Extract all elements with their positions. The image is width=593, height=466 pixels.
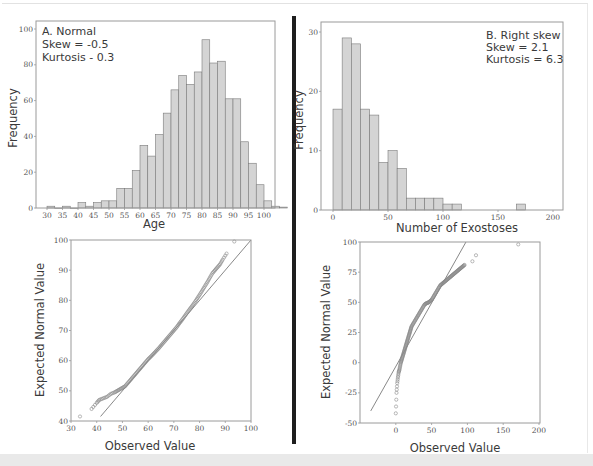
histogram-bar (233, 99, 241, 208)
data-point (471, 260, 474, 263)
y-tick-label: 90 (58, 266, 68, 275)
qq-plot-age-points (78, 240, 251, 418)
histogram-bar (434, 198, 443, 210)
x-tick-label: 200 (532, 426, 547, 435)
x-tick-label: 90 (228, 211, 238, 220)
data-point (474, 254, 477, 257)
histogram-bar (333, 109, 342, 210)
y-tick-label: 80 (58, 296, 68, 305)
histogram-bar (406, 198, 415, 210)
data-point (93, 403, 96, 406)
qq-plot-age-axes: 30405060708090100405060708090100 (54, 236, 259, 434)
qq-plot-exostoses-points (371, 242, 520, 415)
y-axis-title: Expected Normal Value (33, 263, 47, 397)
x-tick-label: 100 (244, 424, 259, 433)
y-tick-label: 40 (58, 417, 68, 426)
x-tick-label: 40 (73, 211, 83, 220)
x-tick-label: 35 (58, 211, 68, 220)
y-tick-label: 100 (343, 238, 358, 247)
histogram-bar (156, 135, 164, 208)
x-tick-label: 50 (118, 424, 128, 433)
histogram-bar (94, 203, 102, 208)
histogram-bar (194, 72, 202, 208)
histogram-bar (187, 84, 195, 208)
data-point (90, 407, 93, 410)
figure-canvas: 3035404550556065707580859095100020406080… (0, 0, 593, 466)
histogram-age-bars (47, 40, 287, 209)
x-tick-label: 90 (221, 424, 231, 433)
histogram-bar (397, 168, 406, 210)
histogram-bar (256, 185, 264, 208)
x-tick-label: 200 (546, 213, 561, 222)
histogram-exostoses: 0501001502000102030 B. Right skew Skew =… (292, 22, 563, 235)
histogram-bar (280, 207, 288, 208)
y-axis-title: Frequency (6, 88, 20, 148)
x-tick-label: 75 (182, 211, 192, 220)
y-tick-label: 70 (58, 326, 68, 335)
histogram-bar (361, 109, 370, 210)
data-point (517, 243, 520, 246)
histogram-bar (351, 44, 360, 210)
x-tick-label: 80 (197, 211, 207, 220)
histogram-bar (425, 198, 434, 210)
y-tick-label: 20 (23, 168, 33, 177)
histogram-bar (249, 163, 257, 208)
y-tick-label: 0 (313, 206, 318, 215)
data-point (395, 385, 398, 388)
histogram-bar (210, 63, 218, 208)
y-tick-label: 25 (347, 328, 357, 337)
histogram-bar (443, 204, 452, 210)
y-tick-label: 30 (308, 28, 318, 37)
y-tick-label: 50 (58, 386, 68, 395)
annotation-kurtosis: Kurtosis = 6.3 (486, 53, 563, 66)
histogram-bar (101, 201, 109, 208)
y-tick-label: -25 (345, 388, 357, 397)
histogram-bar (78, 203, 86, 208)
x-tick-label: 55 (120, 211, 130, 220)
x-tick-label: 95 (244, 211, 254, 220)
x-tick-label: 45 (89, 211, 99, 220)
histogram-bar (132, 170, 140, 208)
data-point (92, 405, 95, 408)
histogram-bar (218, 61, 226, 208)
reference-line (371, 242, 466, 411)
annotation-title: A. Normal (42, 25, 96, 38)
y-tick-label: -50 (345, 419, 357, 428)
y-tick-label: 80 (23, 60, 33, 69)
histogram-bar (241, 142, 249, 208)
data-point (395, 398, 398, 401)
y-axis-title: Frequency (292, 90, 306, 150)
data-point (395, 388, 398, 391)
plot-frame (71, 240, 251, 421)
histogram-bar (117, 188, 125, 208)
histogram-bar (202, 40, 210, 208)
x-tick-label: 50 (427, 426, 437, 435)
qq-plot-exostoses-axes: 050100150200-50-250255075100 (343, 238, 547, 436)
annotation-skew: Skew = -0.5 (42, 38, 108, 51)
y-tick-label: 20 (308, 87, 318, 96)
data-point (394, 412, 397, 415)
y-tick-label: 40 (23, 132, 33, 141)
x-tick-label: 0 (393, 426, 398, 435)
histogram-bar (388, 151, 397, 210)
x-tick-label: 70 (166, 211, 176, 220)
y-tick-label: 0 (352, 358, 357, 367)
x-tick-label: 50 (104, 211, 114, 220)
x-tick-label: 100 (257, 211, 272, 220)
data-point (394, 405, 397, 408)
histogram-bar (452, 204, 461, 210)
x-tick-label: 40 (92, 424, 102, 433)
x-tick-label: 150 (496, 426, 511, 435)
histogram-bar (225, 99, 233, 208)
y-tick-label: 100 (54, 236, 69, 245)
y-tick-label: 60 (58, 356, 68, 365)
annotation-kurtosis: Kurtosis - 0.3 (42, 51, 114, 64)
y-tick-label: 0 (28, 204, 33, 213)
y-tick-label: 50 (347, 298, 357, 307)
histogram-bar (109, 201, 117, 208)
histogram-bar (370, 115, 379, 210)
histogram-age: 3035404550556065707580859095100020406080… (6, 21, 287, 231)
histogram-bar (342, 38, 351, 210)
histogram-bar (140, 145, 148, 208)
histogram-bar (148, 156, 156, 208)
